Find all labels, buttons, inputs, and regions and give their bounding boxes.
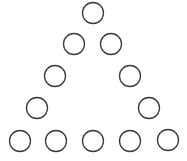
circle-shape [101,34,122,55]
circle-shape [83,3,104,24]
circle-shape [120,131,141,152]
circle-triangle-diagram [0,0,187,161]
circle-shape [158,130,179,151]
circle-shape [120,66,141,87]
circle-shape [83,131,104,152]
circle-shape [45,66,66,87]
circle-shape [10,131,31,152]
circle-shape [27,98,48,119]
circle-shape [139,98,160,119]
circle-shape [64,34,85,55]
circle-shape [46,131,67,152]
